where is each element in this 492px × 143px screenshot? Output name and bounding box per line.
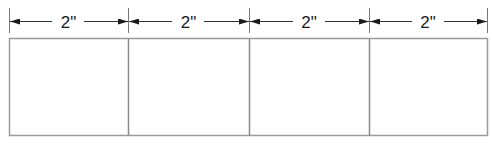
dimension-diagram: 2" 2" 2" 2" xyxy=(0,0,492,143)
panel-frame xyxy=(10,39,488,136)
dimension-label-3: 2" xyxy=(420,13,436,32)
dimension-label-1: 2" xyxy=(181,13,197,32)
dimension-label-2: 2" xyxy=(301,13,317,32)
panels-outline xyxy=(10,39,488,136)
dimension-labels: 2" 2" 2" 2" xyxy=(61,13,436,32)
dimension-label-0: 2" xyxy=(61,13,77,32)
extension-lines xyxy=(10,8,488,33)
